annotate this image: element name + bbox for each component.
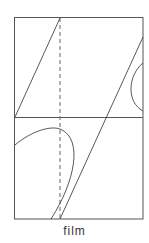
diagonal-line-right (60, 37, 143, 219)
caption-label: film (0, 224, 149, 238)
frame-border (15, 18, 144, 220)
curve-upper-right (131, 63, 143, 111)
diagram-figure (0, 0, 149, 243)
curve-lower-left (15, 128, 74, 219)
diagonal-line-upper-left (15, 18, 60, 117)
